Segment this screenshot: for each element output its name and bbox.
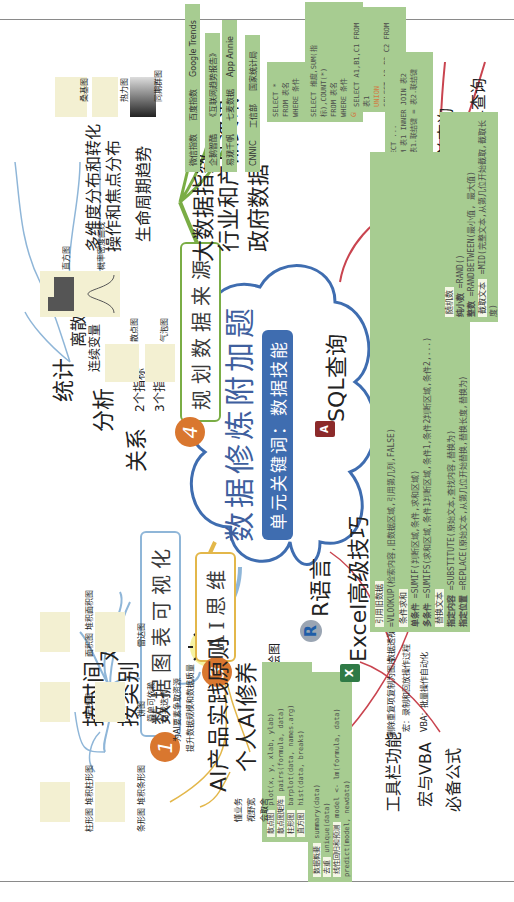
branch-number-4: 4 (175, 417, 205, 447)
key: 单条件 (411, 603, 420, 627)
tag: 截取文本 (478, 279, 487, 317)
key: 指定位置 (459, 595, 468, 627)
sankey-label: 桑基图 (78, 78, 89, 102)
code: summary(data) (313, 784, 321, 839)
radar-chart-label: 雷达图 (135, 623, 146, 647)
code: plot(x, y, xlab, ylab) (267, 713, 275, 806)
industry-sources-2: 易观千帆 七麦数据 App Annie (222, 20, 237, 172)
scatter-thumbnail (105, 344, 139, 382)
mind-map-canvas: 数据修炼附加题 单元关键词：数据技能 数据图表可视化 1 统计 离散变量 连续变… (0, 0, 514, 902)
industry-sources-1: 企鹅智酷 《互联网趋势报告》 (205, 33, 220, 172)
excel-rand-box: 随机数 纯小数 =RAND() 整数 =RANDBETWEEN(最小值, 最大值… (440, 112, 498, 322)
code-line: FROM 表名 (281, 67, 291, 117)
toolbar-copy-image: 复制为图片 (385, 657, 396, 697)
source-nbs: 国家统计局 (247, 51, 258, 91)
key: 整数 (467, 301, 476, 317)
scatter-label: 散点图 (128, 318, 139, 342)
node-statistics[interactable]: 统计 (45, 358, 77, 402)
key: 多条件 (423, 603, 432, 627)
node-macro-vba[interactable]: 宏与VBA (412, 742, 436, 807)
tag: 引用旧数据 (375, 581, 384, 627)
bubble-thumbnail (145, 344, 175, 382)
histogram-thumbnail (40, 271, 80, 317)
macro-desc: 宏：录制和回放操作过程 (400, 644, 411, 732)
source-penguin: 企鹅智酷 (207, 134, 218, 166)
node-relation[interactable]: 关系 (118, 428, 150, 472)
source-app-annie: App Annie (226, 36, 235, 77)
code-line: UNION (372, 12, 382, 107)
r-analysis-box: 数据概要 summary(data) 去重 unique(data) 线性回归和… (308, 672, 352, 882)
code-line: FROM 表名 (329, 7, 339, 117)
line-chart-label: 折线图 (83, 693, 94, 717)
tag: 随机数 (445, 287, 454, 317)
node-gov-data[interactable]: 政府数据 (240, 164, 272, 252)
source-google-trends: Google Trends (189, 20, 198, 77)
node-continuous-var[interactable]: 连续变量 (85, 324, 102, 372)
node-personal-ai[interactable]: 个人AI修养 (228, 662, 260, 772)
bubble-label: 气泡图 (158, 318, 169, 342)
toolbar-remove-dup: 删除重复项 (385, 697, 396, 737)
column-chart-thumbnail (40, 782, 70, 822)
code-line: SELECT A1,B1,C1 FROM 表1 (352, 12, 372, 107)
access-icon: A (315, 421, 335, 437)
randbetween-formula: =RANDBETWEEN(最小值, 最大值) (467, 171, 476, 296)
code: barplot(data, names.arg) (287, 705, 295, 806)
key: 纯小数 (456, 293, 465, 317)
code-line: WHERE 条件 (291, 67, 301, 117)
source-wechat-index: 微信指数 (187, 134, 198, 166)
tag: 数据概要 (313, 843, 321, 877)
source-qimai: 七麦数据 (224, 89, 235, 121)
bar-chart-label: 条形图 堆积条形图 (135, 765, 146, 832)
node-excel-toolbar[interactable]: 工具栏功能 (380, 732, 404, 812)
heatmap-label: 热力图 (118, 78, 129, 102)
code-line: FROM 表1 INNER JOIN 表2 (399, 57, 409, 167)
tag: 直方图 (297, 810, 305, 837)
rand-formula: =RAND() (456, 254, 465, 288)
column-chart-label: 柱形图 堆积柱形图 (83, 765, 94, 832)
tag: 去重 (323, 857, 331, 877)
ai-principle-3: 为AI要素争取资源 (171, 678, 182, 742)
branch-data-source-label: 规划数据来源 (190, 254, 214, 410)
ai-skill-business: 懂业务 (232, 798, 243, 822)
node-lifecycle[interactable]: 生命周期趋势 (130, 146, 154, 242)
code-line: SELECT 维度,SUM(指标),COUNT(*) (309, 7, 329, 117)
node-r-language[interactable]: R语言 (302, 558, 334, 617)
code: hist(data, breaks) (297, 730, 305, 806)
r-plot-box: 散点图 plot(x, y, xlab, ylab) 散点图矩阵 pairs(f… (262, 662, 312, 842)
node-sql[interactable]: SQL查询 (318, 334, 350, 422)
ai-principle-4: 提升数据规模和数据质量 (184, 664, 195, 752)
density-curve-label: 概率密度曲线 (95, 222, 106, 270)
excel-icon: X (340, 664, 360, 682)
r-icon: R (300, 620, 322, 642)
node-excel[interactable]: Excel高级技巧 (340, 516, 372, 662)
central-subtitle: 单元关键词：数据技能 (262, 330, 293, 540)
node-excel-formulas[interactable]: 必备公式 (440, 748, 464, 812)
bar-chart-thumbnail (95, 782, 125, 822)
ai-skill-vision: 视野宽 (245, 798, 256, 822)
histogram-label: 直方图 (60, 246, 71, 270)
code-line: SELECT ... (389, 57, 399, 167)
code-line: ON 表1.联结键 = 表2.联结键 (409, 57, 419, 167)
gov-sources: CNNIC 工信部 国家统计局 (245, 35, 260, 172)
key: 指定内容 (447, 595, 456, 627)
sql-simple-code: SELECT * FROM 表名 WHERE 条件 (267, 62, 305, 122)
bigdata-sources: 微信指数 百度指数 Google Trends (185, 4, 200, 172)
tag: 柱形图 (287, 810, 295, 837)
ai-principle-1: 简单可依赖 (145, 682, 156, 722)
tag: 散点图矩阵 (277, 796, 285, 837)
branch-ai-label: AI思维 (205, 564, 229, 650)
substitute-formula: =SUBSTITUTE(原始文本,查找内容,替换为) (447, 430, 456, 590)
area-chart-label: 面积图 堆积面积图 (83, 590, 94, 657)
ai-skill-tradeoff: 会取舍 (258, 798, 269, 822)
branch-data-source[interactable]: 规划数据来源 (180, 242, 221, 422)
pie-chart-thumbnail (95, 682, 125, 722)
density-curve-thumbnail (80, 271, 120, 317)
code: pairs(formula, data) (277, 707, 285, 791)
radar-chart-thumbnail (95, 612, 125, 652)
code-line: ... (419, 57, 429, 167)
replace-formula: =REPLACE(原始文本,从第几位开始替换,替换长度,替换为) (459, 376, 468, 591)
ai-principle-2: 自我迭代 (158, 690, 169, 722)
node-analysis[interactable]: 分析 (85, 388, 117, 432)
source-analysys: 易观千帆 (224, 134, 235, 166)
heatmap-thumbnail (92, 77, 118, 117)
